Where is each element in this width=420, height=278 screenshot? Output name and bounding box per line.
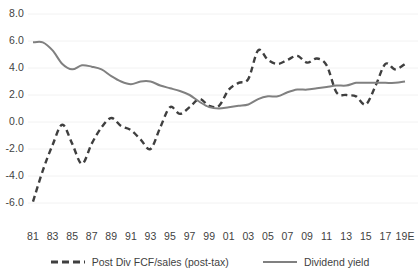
legend-item-1[interactable]: Post Div FCF/sales (post-tax) bbox=[51, 256, 229, 268]
y-axis-tick-label: -4.0 bbox=[0, 169, 24, 181]
legend-item-2[interactable]: Dividend yield bbox=[263, 256, 369, 268]
chart-legend: Post Div FCF/sales (post-tax)Dividend yi… bbox=[0, 250, 420, 274]
y-axis-tick-label: 4.0 bbox=[0, 61, 24, 73]
solid-line-icon bbox=[263, 257, 297, 267]
series-line-1 bbox=[33, 50, 405, 202]
series-line-2 bbox=[33, 42, 405, 109]
y-axis-tick-label: -6.0 bbox=[0, 196, 24, 208]
y-axis-tick-label: 8.0 bbox=[0, 7, 24, 19]
x-axis-tick-label: 19E bbox=[391, 230, 419, 242]
y-axis-tick-label: 6.0 bbox=[0, 34, 24, 46]
dashed-line-icon bbox=[51, 257, 85, 267]
y-axis-tick-label: 2.0 bbox=[0, 88, 24, 100]
y-axis-tick-label: -2.0 bbox=[0, 142, 24, 154]
y-axis-tick-label: 0.0 bbox=[0, 115, 24, 127]
chart-container: 8.06.04.02.00.0-2.0-4.0-6.0 818385878991… bbox=[0, 0, 420, 278]
legend-label: Dividend yield bbox=[304, 256, 369, 268]
legend-label: Post Div FCF/sales (post-tax) bbox=[92, 256, 229, 268]
